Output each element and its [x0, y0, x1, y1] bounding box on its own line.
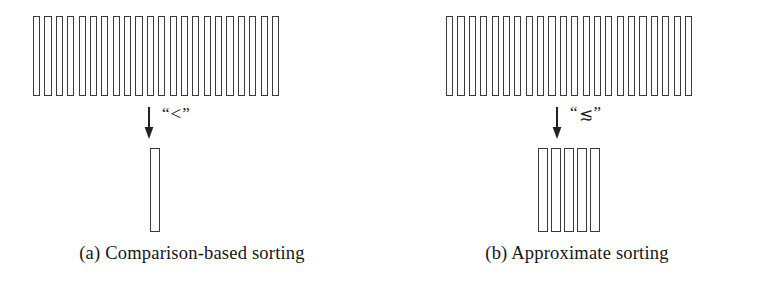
down-arrow-icon	[142, 106, 156, 140]
input-bar	[249, 16, 256, 96]
panel-caption: (b) Approximate sorting	[385, 243, 769, 263]
input-bar-array	[33, 16, 279, 96]
output-bar	[150, 148, 160, 232]
input-bar	[101, 16, 108, 96]
down-arrow-icon	[550, 106, 564, 140]
output-bar	[590, 148, 600, 232]
input-bar	[238, 16, 245, 96]
input-bar	[560, 16, 567, 96]
open-quote: “	[570, 103, 578, 122]
input-bar	[548, 16, 555, 96]
output-bar	[577, 148, 587, 232]
input-bar	[33, 16, 40, 96]
input-bar	[226, 16, 233, 96]
input-bar	[617, 16, 624, 96]
input-bar	[639, 16, 646, 96]
input-bar	[44, 16, 51, 96]
input-bar	[480, 16, 487, 96]
input-bar	[583, 16, 590, 96]
input-bar	[67, 16, 74, 96]
input-bar	[124, 16, 131, 96]
input-bar	[204, 16, 211, 96]
input-bar	[605, 16, 612, 96]
input-bar	[158, 16, 165, 96]
input-bar	[170, 16, 177, 96]
relation-symbol: ≲	[578, 106, 594, 123]
input-bar	[147, 16, 154, 96]
output-bar-array	[150, 148, 160, 232]
input-bar	[674, 16, 681, 96]
output-bar	[538, 148, 548, 232]
input-bar	[628, 16, 635, 96]
input-bar	[181, 16, 188, 96]
input-bar	[685, 16, 692, 96]
input-bar	[469, 16, 476, 96]
panel-approximate-sorting: “≲” (b) Approximate sorting	[385, 0, 769, 283]
input-bar	[457, 16, 464, 96]
input-bar	[446, 16, 453, 96]
input-bar	[514, 16, 521, 96]
panel-comparison-based-sorting: “<” (a) Comparison-based sorting	[0, 0, 384, 283]
sorting-comparison-figure: “<” (a) Comparison-based sorting “≲” (b)…	[0, 0, 769, 283]
input-bar	[56, 16, 63, 96]
input-bar	[215, 16, 222, 96]
relation-symbol: <	[170, 104, 183, 123]
input-bar	[113, 16, 120, 96]
input-bar	[651, 16, 658, 96]
open-quote: “	[162, 104, 170, 123]
input-bar	[537, 16, 544, 96]
relation-label: “<”	[162, 104, 190, 123]
input-bar	[192, 16, 199, 96]
input-bar	[571, 16, 578, 96]
input-bar	[662, 16, 669, 96]
transform-group: “≲”	[550, 104, 601, 140]
close-quote: ”	[182, 104, 190, 123]
input-bar	[261, 16, 268, 96]
input-bar	[526, 16, 533, 96]
output-bar	[564, 148, 574, 232]
input-bar	[503, 16, 510, 96]
close-quote: ”	[594, 103, 602, 122]
input-bar	[594, 16, 601, 96]
input-bar	[90, 16, 97, 96]
transform-group: “<”	[142, 104, 190, 140]
relation-label: “≲”	[570, 104, 601, 122]
panel-caption: (a) Comparison-based sorting	[0, 243, 384, 263]
input-bar	[272, 16, 279, 96]
output-bar	[551, 148, 561, 232]
input-bar-array	[446, 16, 692, 96]
input-bar	[492, 16, 499, 96]
input-bar	[79, 16, 86, 96]
input-bar	[135, 16, 142, 96]
output-bar-array	[538, 148, 600, 232]
